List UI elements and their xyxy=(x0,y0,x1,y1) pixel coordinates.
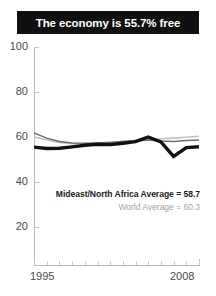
x-tick-label-start: 1995 xyxy=(30,270,54,282)
chart-figure: The economy is 55.7% free 100 80 60 40 2… xyxy=(0,0,216,296)
annotation-world-average: World Average = 60.3 xyxy=(38,202,200,212)
chart-plot-area xyxy=(34,47,199,265)
y-tick-label-20: 20 xyxy=(0,220,28,232)
x-axis-line xyxy=(34,265,200,266)
annotation-regional-average: Mideast/North Africa Average = 58.7 xyxy=(38,189,200,199)
y-tick-label-100: 100 xyxy=(0,40,28,52)
x-tick-2008 xyxy=(199,261,200,265)
chart-title-bar: The economy is 55.7% free xyxy=(17,11,199,34)
x-tick-label-end: 2008 xyxy=(170,270,194,282)
series-line-country xyxy=(34,137,199,156)
page-title: The economy is 55.7% free xyxy=(17,11,199,34)
y-tick-label-80: 80 xyxy=(0,85,28,97)
y-tick-label-40: 40 xyxy=(0,175,28,187)
y-tick-label-60: 60 xyxy=(0,130,28,142)
